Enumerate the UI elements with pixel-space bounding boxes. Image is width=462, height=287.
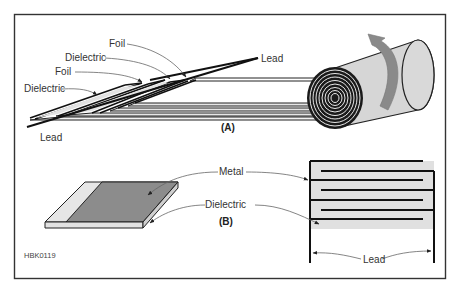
label-lead: Lead	[363, 254, 385, 265]
label-dielectric-upper: Dielectric	[65, 52, 106, 63]
label-dielectric-lower: Dielectric	[24, 83, 65, 94]
lead-wire-top-right	[150, 58, 258, 80]
label-lead-bottom: Lead	[40, 132, 62, 143]
panel-a-rolled-capacitor: Foil Dielectric Foil Dielectric Lead Lea…	[24, 34, 434, 143]
caption-a: (A)	[221, 122, 235, 133]
metal-on-dielectric-sheet	[45, 182, 178, 228]
label-foil-top: Foil	[109, 38, 125, 49]
label-lead-top: Lead	[261, 53, 283, 64]
panel-b-stacked-capacitor: Metal Dielectric (B) Lead	[45, 161, 434, 265]
capacitor-construction-diagram: Foil Dielectric Foil Dielectric Lead Lea…	[0, 0, 462, 287]
label-dielectric: Dielectric	[205, 199, 246, 210]
interleaved-plates	[310, 161, 434, 263]
roll-spiral-end	[307, 67, 363, 129]
capacitor-roll	[307, 34, 434, 129]
figure-id-label: HBK0119	[24, 251, 56, 260]
caption-b: (B)	[219, 216, 233, 227]
label-foil-lower: Foil	[55, 66, 71, 77]
label-metal: Metal	[219, 166, 243, 177]
